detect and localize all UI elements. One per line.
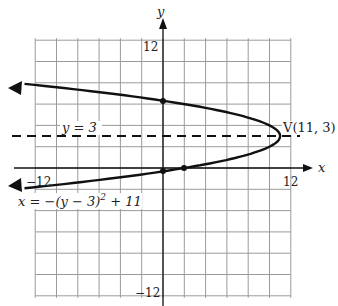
x-axis-label: x <box>318 160 326 175</box>
x-axis-arrow-icon <box>303 164 313 172</box>
tick-x-max: 12 <box>283 175 298 189</box>
asymptote-label: y = 3 <box>61 120 97 135</box>
tick-y-max: 12 <box>143 40 158 54</box>
point-x-intercept <box>181 165 187 171</box>
tick-x-min: −12 <box>26 175 51 189</box>
y-axis-arrow-icon <box>159 18 167 29</box>
parabola-graph: y x 12 −12 12 −12 y = 3 V(11, 3) x = −(y… <box>0 0 338 306</box>
lower-arrow-icon <box>8 178 22 192</box>
upper-arrow-icon <box>8 81 22 95</box>
equation-label: x = −(y − 3)2 + 11 <box>18 192 142 209</box>
point-y-intercept-upper <box>160 98 166 104</box>
y-axis-label: y <box>156 4 165 19</box>
point-y-intercept-lower <box>160 168 166 174</box>
tick-y-min: −12 <box>135 286 160 300</box>
vertex-label: V(11, 3) <box>282 120 336 135</box>
